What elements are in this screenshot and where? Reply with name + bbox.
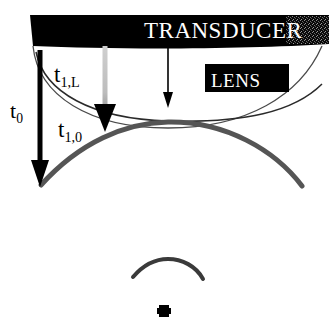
lens-edge-arrow-shaft (103, 46, 108, 112)
label-t10: t1,0 (58, 117, 82, 143)
t0-arrow-shaft (38, 50, 43, 168)
focal-point-marker (157, 305, 171, 317)
label-t0-subscript: 0 (16, 111, 23, 126)
label-t0: t0 (10, 98, 23, 124)
label-t10-subscript: 1,0 (64, 129, 82, 145)
converging-wavefront-small (133, 259, 203, 279)
diagram-canvas (0, 0, 329, 331)
label-t1L-subscript: 1,L (60, 74, 79, 90)
lens-label: LENS (211, 70, 261, 92)
label-t1L: t1,L (54, 62, 80, 88)
transducer-label: TRANSDUCER (144, 18, 302, 44)
acoustic-lens-focusing-diagram: TRANSDUCER LENS t0 t1,L t1,0 (0, 0, 329, 331)
